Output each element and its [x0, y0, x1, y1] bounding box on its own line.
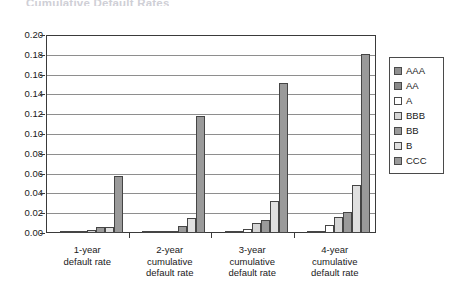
- y-axis-tick-mark: [40, 154, 45, 155]
- category-label-line: 2-year: [129, 244, 212, 256]
- legend-item-label: A: [406, 96, 412, 106]
- y-axis-tick-label: 0.12: [3, 109, 43, 119]
- legend-item-label: BB: [406, 126, 419, 136]
- gridline: [47, 193, 375, 194]
- legend-swatch-icon: [394, 112, 402, 120]
- y-axis-tick-mark: [40, 114, 45, 115]
- y-axis-tick-label: 0.14: [3, 89, 43, 99]
- legend-item-aa[interactable]: AA: [394, 78, 440, 93]
- y-axis-tick-mark: [40, 193, 45, 194]
- gridline: [47, 94, 375, 95]
- gridline: [47, 75, 375, 76]
- legend-swatch-icon: [394, 97, 402, 105]
- chart-title: Cumulative Default Rates: [26, 0, 169, 6]
- legend-swatch-icon: [394, 157, 402, 165]
- y-axis-tick-mark: [40, 233, 45, 234]
- gridline: [47, 114, 375, 115]
- x-axis-category-label: 1-yeardefault rate: [46, 244, 129, 267]
- x-axis-category-label: 4-yearcumulativedefault rate: [294, 244, 377, 279]
- x-axis-category-label: 2-yearcumulativedefault rate: [129, 244, 212, 279]
- y-axis-tick-label: 0.06: [3, 169, 43, 179]
- legend-item-a[interactable]: A: [394, 93, 440, 108]
- legend-item-label: AA: [406, 81, 419, 91]
- y-axis-tick-label: 0.16: [3, 70, 43, 80]
- y-axis-tick-mark: [40, 75, 45, 76]
- category-label-line: cumulative: [129, 256, 212, 268]
- y-axis-tick-mark: [40, 174, 45, 175]
- y-axis-tick-mark: [40, 55, 45, 56]
- category-label-line: 3-year: [211, 244, 294, 256]
- gridline: [47, 154, 375, 155]
- x-axis-tick-mark: [129, 233, 130, 238]
- legend-item-b[interactable]: B: [394, 138, 440, 153]
- plot-area: [46, 35, 376, 233]
- legend-item-bb[interactable]: BB: [394, 123, 440, 138]
- y-axis-tick-label: 0.08: [3, 149, 43, 159]
- y-axis: 0.200.180.160.140.120.100.080.060.040.02…: [0, 35, 43, 233]
- gridline: [47, 174, 375, 175]
- category-label-line: cumulative: [294, 256, 377, 268]
- legend-item-label: BBB: [406, 111, 425, 121]
- y-axis-tick-mark: [40, 134, 45, 135]
- legend-item-aaa[interactable]: AAA: [394, 63, 440, 78]
- y-axis-tick-label: 0.18: [3, 50, 43, 60]
- category-label-line: default rate: [211, 267, 294, 279]
- y-axis-tick-label: 0.20: [3, 30, 43, 40]
- legend-item-ccc[interactable]: CCC: [394, 153, 440, 168]
- category-label-line: 4-year: [294, 244, 377, 256]
- x-axis-tick-mark: [211, 233, 212, 238]
- legend-swatch-icon: [394, 127, 402, 135]
- category-label-line: default rate: [294, 267, 377, 279]
- category-label-line: cumulative: [211, 256, 294, 268]
- category-label-line: default rate: [46, 256, 129, 268]
- x-axis-tick-mark: [294, 233, 295, 238]
- legend-swatch-icon: [394, 142, 402, 150]
- y-axis-tick-mark: [40, 35, 45, 36]
- y-axis-tick-mark: [40, 213, 45, 214]
- gridline: [47, 213, 375, 214]
- legend-item-label: AAA: [406, 66, 425, 76]
- y-axis-tick-mark: [40, 94, 45, 95]
- y-axis-tick-label: 0.04: [3, 188, 43, 198]
- y-axis-tick-label: 0.02: [3, 208, 43, 218]
- gridline: [47, 134, 375, 135]
- gridline: [47, 55, 375, 56]
- x-axis-category-label: 3-yearcumulativedefault rate: [211, 244, 294, 279]
- y-axis-tick-label: 0.10: [3, 129, 43, 139]
- legend-swatch-icon: [394, 82, 402, 90]
- legend-item-bbb[interactable]: BBB: [394, 108, 440, 123]
- y-axis-tick-label: 0.00: [3, 228, 43, 238]
- category-label-line: 1-year: [46, 244, 129, 256]
- legend-item-label: B: [406, 141, 412, 151]
- legend-swatch-icon: [394, 67, 402, 75]
- category-label-line: default rate: [129, 267, 212, 279]
- chart-legend: AAAAAABBBBBBCCC: [389, 57, 444, 174]
- legend-item-label: CCC: [406, 156, 427, 166]
